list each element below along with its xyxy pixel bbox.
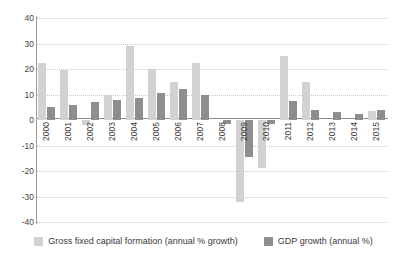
bar-gfcf-2000[interactable] — [38, 63, 46, 120]
bar-gfcf-2012[interactable] — [302, 82, 310, 120]
bar-gdp-2015[interactable] — [377, 110, 385, 120]
bar-gfcf-2005[interactable] — [148, 69, 156, 120]
x-tick-label-2004: 2004 — [130, 122, 139, 141]
y-tick-label: 0 — [6, 116, 34, 124]
legend-label-gfcf: Gross fixed capital formation (annual % … — [48, 236, 238, 246]
x-tick-label-2003: 2003 — [108, 122, 117, 141]
bar-gdp-2012[interactable] — [311, 110, 319, 120]
x-tick-label-2009: 2009 — [240, 122, 249, 141]
x-tick-label-2014: 2014 — [350, 122, 359, 141]
x-tick-label-2013: 2013 — [328, 122, 337, 141]
x-tick-label-2001: 2001 — [64, 122, 73, 141]
y-tick-label: 20 — [6, 65, 34, 73]
legend-swatch-gdp — [264, 237, 273, 246]
y-tick-label: -20 — [6, 167, 34, 175]
gridline — [36, 222, 388, 223]
legend-swatch-gfcf — [34, 237, 43, 246]
x-tick-label-2005: 2005 — [152, 122, 161, 141]
bar-gdp-2004[interactable] — [135, 98, 143, 120]
bar-gdp-2013[interactable] — [333, 112, 341, 120]
y-tick-label: 40 — [6, 14, 34, 22]
x-tick-label-2010: 2010 — [262, 122, 271, 141]
bar-gdp-2003[interactable] — [113, 100, 121, 120]
x-tick-label-2015: 2015 — [372, 122, 381, 141]
bar-gdp-2002[interactable] — [91, 102, 99, 120]
y-tick-label: -30 — [6, 193, 34, 201]
bar-gfcf-2001[interactable] — [60, 70, 68, 120]
legend-item-gdp[interactable]: GDP growth (annual %) — [264, 236, 373, 246]
x-tick-label-2007: 2007 — [196, 122, 205, 141]
bar-gfcf-2007[interactable] — [192, 63, 200, 120]
y-tick-label: 30 — [6, 40, 34, 48]
x-axis-tick-labels: 2000200120022003200420052006200720082009… — [36, 120, 388, 160]
legend-label-gdp: GDP growth (annual %) — [278, 236, 373, 246]
bar-gdp-2001[interactable] — [69, 105, 77, 120]
bar-gdp-2011[interactable] — [289, 101, 297, 120]
bar-gfcf-2011[interactable] — [280, 56, 288, 120]
legend-item-gfcf[interactable]: Gross fixed capital formation (annual % … — [34, 236, 238, 246]
y-axis-tick-labels: 403020100-10-20-30-40 — [0, 0, 34, 230]
x-tick-label-2011: 2011 — [284, 122, 293, 140]
bar-gdp-2006[interactable] — [179, 89, 187, 120]
x-tick-label-2008: 2008 — [218, 122, 227, 141]
bar-gdp-2005[interactable] — [157, 93, 165, 120]
x-tick-label-2006: 2006 — [174, 122, 183, 141]
x-tick-label-2000: 2000 — [42, 122, 51, 141]
bar-gdp-2007[interactable] — [201, 95, 209, 121]
bar-gdp-2000[interactable] — [47, 107, 55, 120]
chart-legend: Gross fixed capital formation (annual % … — [0, 228, 407, 254]
x-tick-label-2012: 2012 — [306, 122, 315, 141]
bar-gfcf-2006[interactable] — [170, 82, 178, 120]
bar-chart: 403020100-10-20-30-40 200020012002200320… — [0, 0, 407, 257]
bar-gfcf-2003[interactable] — [104, 95, 112, 121]
y-tick-label: -10 — [6, 142, 34, 150]
y-tick-label: -40 — [6, 218, 34, 226]
y-tick-label: 10 — [6, 91, 34, 99]
x-tick-label-2002: 2002 — [86, 122, 95, 141]
bar-gfcf-2004[interactable] — [126, 46, 134, 120]
bar-gfcf-2015[interactable] — [368, 111, 376, 120]
